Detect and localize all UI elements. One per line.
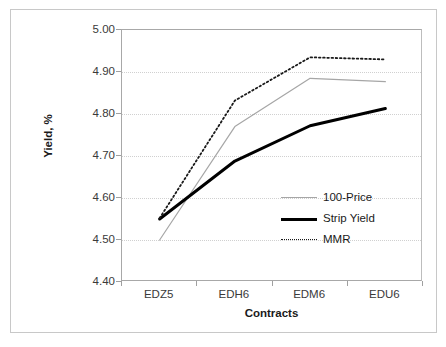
chart-frame: Yield, % 4.404.504.604.704.804.905.00 ED…	[10, 9, 437, 333]
chart-legend: 100-Price Strip Yield MMR	[279, 186, 414, 249]
y-axis-tick-label: 5.00	[93, 23, 115, 35]
y-axis-tick-label: 4.90	[93, 65, 115, 77]
legend-label: MMR	[319, 233, 350, 245]
legend-label: Strip Yield	[319, 212, 375, 224]
y-axis-tick-label: 4.80	[93, 107, 115, 119]
y-axis-tick-label: 4.60	[93, 191, 115, 203]
y-axis-tick-label: 4.40	[93, 275, 115, 287]
legend-line-icon-mmr	[279, 234, 319, 244]
y-axis-tick-mark	[116, 113, 121, 114]
legend-item-mmr: MMR	[279, 228, 414, 249]
legend-item-100-price: 100-Price	[279, 186, 414, 207]
x-axis-tick-mark	[347, 281, 348, 286]
x-axis-tick-mark	[121, 281, 122, 286]
y-axis-tick-mark	[116, 71, 121, 72]
y-axis-tick-mark	[116, 155, 121, 156]
legend-item-strip-yield: Strip Yield	[279, 207, 414, 228]
x-axis-title: Contracts	[121, 307, 422, 319]
x-axis-tick-mark	[422, 281, 423, 286]
legend-line-icon-100-price	[279, 192, 319, 202]
y-axis-tick-mark	[116, 239, 121, 240]
x-axis-tick-label: EDH6	[219, 288, 250, 300]
y-axis-tick-mark	[116, 281, 121, 282]
y-axis-title: Yield, %	[42, 91, 54, 181]
legend-line-icon-strip-yield	[279, 213, 319, 223]
y-axis-tick-mark	[116, 29, 121, 30]
y-axis-tick-label: 4.50	[93, 233, 115, 245]
y-axis-tick-mark	[116, 197, 121, 198]
x-axis-tick-label: EDZ5	[144, 288, 173, 300]
y-axis-tick-label: 4.70	[93, 149, 115, 161]
x-axis-tick-label: EDM6	[293, 288, 325, 300]
x-axis-tick-mark	[196, 281, 197, 286]
y-axis-tick-labels: 4.404.504.604.704.804.905.00	[63, 29, 115, 281]
x-axis-tick-mark	[272, 281, 273, 286]
x-axis-tick-label: EDU6	[369, 288, 400, 300]
legend-label: 100-Price	[319, 191, 372, 203]
